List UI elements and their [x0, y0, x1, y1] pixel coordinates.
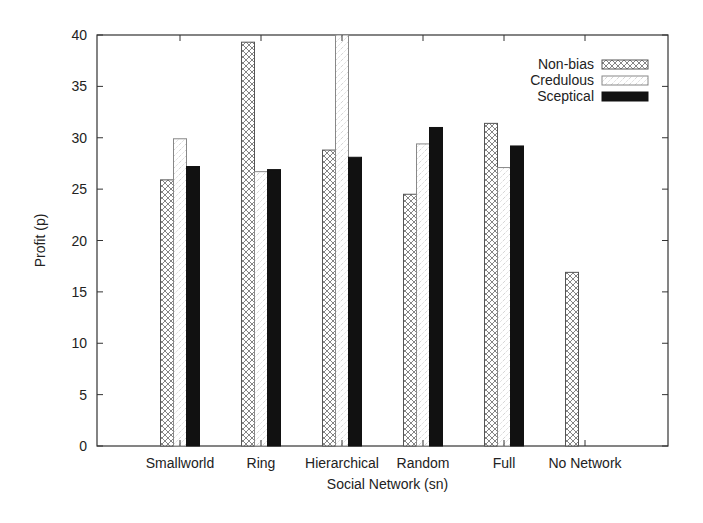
x-tick-label: No Network: [548, 455, 622, 471]
bar-credulous-hierarchical: [336, 35, 349, 446]
legend-label-credulous: Credulous: [530, 72, 594, 88]
x-tick-label: Hierarchical: [305, 455, 379, 471]
bar-sceptical-full: [511, 146, 524, 446]
legend-label-nonbias: Non-bias: [538, 56, 594, 72]
y-tick-label: 5: [79, 387, 87, 403]
bar-nonbias-full: [485, 123, 498, 446]
bar-nonbias-smallworld: [161, 180, 174, 446]
bar-sceptical-smallworld: [187, 167, 200, 446]
bar-credulous-ring: [255, 172, 268, 446]
x-axis-title: Social Network (sn): [327, 476, 448, 492]
y-tick-label: 25: [71, 181, 87, 197]
x-tick-label: Full: [493, 455, 516, 471]
bar-credulous-random: [417, 144, 430, 446]
x-tick-label: Smallworld: [146, 455, 214, 471]
y-tick-label: 0: [79, 438, 87, 454]
y-tick-label: 10: [71, 335, 87, 351]
y-tick-label: 20: [71, 233, 87, 249]
bar-nonbias-ring: [242, 42, 255, 446]
x-tick-label: Ring: [247, 455, 276, 471]
y-tick-label: 30: [71, 130, 87, 146]
bar-sceptical-hierarchical: [349, 157, 362, 446]
y-tick-label: 15: [71, 284, 87, 300]
bar-sceptical-ring: [268, 170, 281, 446]
x-tick-label: Random: [397, 455, 450, 471]
bar-nonbias-no-network: [566, 272, 579, 446]
legend: Non-biasCredulousSceptical: [530, 56, 648, 104]
bar-nonbias-random: [404, 194, 417, 446]
y-tick-label: 40: [71, 27, 87, 43]
bars-group: [161, 35, 579, 446]
y-axis-title: Profit (p): [32, 214, 48, 268]
y-tick-label: 35: [71, 78, 87, 94]
legend-swatch-credulous: [602, 76, 648, 85]
legend-swatch-sceptical: [602, 92, 648, 101]
bar-nonbias-hierarchical: [323, 150, 336, 446]
legend-label-sceptical: Sceptical: [537, 88, 594, 104]
bar-credulous-smallworld: [174, 139, 187, 446]
legend-swatch-nonbias: [602, 60, 648, 69]
bar-chart: 0510152025303540SmallworldRingHierarchic…: [0, 0, 703, 523]
bar-sceptical-random: [430, 127, 443, 446]
bar-credulous-full: [498, 168, 511, 446]
